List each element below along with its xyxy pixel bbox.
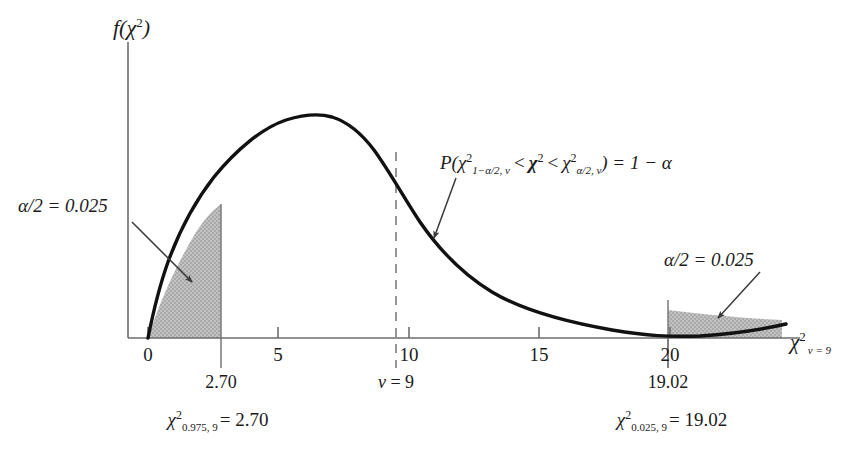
- left-caption: χ20.975, 9= 2.70: [168, 408, 269, 433]
- prob-prefix: P(: [440, 152, 458, 173]
- probability-arrow: [434, 178, 456, 238]
- prob-chi-upper: χ: [562, 152, 570, 173]
- y-axis-label-prefix: f(: [113, 15, 126, 40]
- x-tick-label-10: 10: [400, 344, 419, 366]
- right-alpha-arrow: [718, 272, 760, 318]
- right-caption-sub: 0.025, 9: [631, 421, 667, 433]
- left-caption-sup: 2: [176, 408, 182, 422]
- x-tick-label-15: 15: [530, 344, 549, 366]
- y-axis-label-chi: χ: [126, 15, 136, 40]
- nu-equals: = 9: [390, 372, 414, 392]
- prob-op1: <: [514, 152, 525, 173]
- right-alpha-label: α/2 = 0.025: [664, 250, 754, 269]
- right-caption-equals: = 19.02: [669, 409, 727, 430]
- y-axis-label: f(χ2): [113, 16, 150, 39]
- nu-value-label: ν = 9: [378, 372, 414, 393]
- prob-sub-upper: α/2, ν: [577, 164, 602, 176]
- chi-square-density-curve: [148, 115, 786, 338]
- x-tick-label-20: 20: [661, 344, 680, 366]
- upper-critical-value-label: 19.02: [648, 372, 689, 393]
- x-axis-label-chi: χ: [790, 330, 799, 354]
- left-caption-equals: = 2.70: [220, 409, 269, 430]
- prob-suffix: ) = 1 − α: [601, 152, 671, 173]
- x-axis-label-subscript: ν = 9: [808, 344, 831, 356]
- prob-chi-mid: χ: [529, 152, 538, 173]
- critical-value-ticks: [221, 338, 668, 368]
- x-tick-label-0: 0: [143, 344, 153, 366]
- right-caption-sup: 2: [625, 408, 631, 422]
- chi-square-figure: [0, 0, 859, 450]
- prob-sup-upper: 2: [571, 151, 577, 165]
- left-alpha-label: α/2 = 0.025: [18, 196, 108, 215]
- x-tick-label-5: 5: [273, 344, 283, 366]
- prob-sup-lower: 2: [466, 151, 472, 165]
- left-caption-sub: 0.975, 9: [182, 421, 218, 433]
- prob-sup-mid: 2: [538, 151, 544, 165]
- axis-ticks: [148, 327, 670, 338]
- right-caption: χ20.025, 9= 19.02: [617, 408, 727, 433]
- x-axis-label: χ2ν = 9: [790, 330, 831, 356]
- nu-symbol: ν: [378, 372, 386, 392]
- y-axis-label-suffix: ): [143, 15, 150, 40]
- x-axis-label-exponent: 2: [799, 329, 806, 344]
- prob-op2: <: [548, 152, 559, 173]
- prob-sub-lower: 1−α/2, ν: [472, 164, 510, 176]
- left-alpha-arrow: [132, 222, 192, 282]
- probability-statement: P(χ21−α/2, ν<χ2<χ2α/2, ν) = 1 − α: [440, 152, 672, 176]
- lower-critical-value-label: 2.70: [205, 372, 237, 393]
